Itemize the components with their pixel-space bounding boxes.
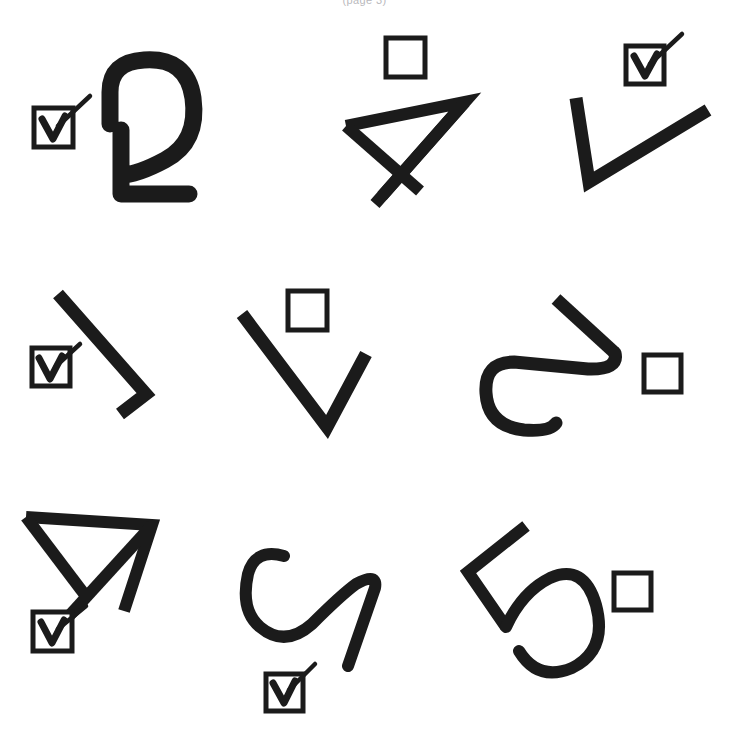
checkbox-checked-item-4[interactable] [22,282,202,427]
checkbox-unchecked-item-6[interactable] [472,292,682,452]
checkbox-checked-item-3[interactable] [548,24,728,214]
stimulus-item-5 [232,282,412,442]
checkbox-box[interactable] [644,355,681,392]
checkbox-checked-item-1[interactable] [24,24,244,224]
checkbox-box[interactable] [288,291,327,330]
scanned-worksheet-page: (page 3) [0,0,729,744]
stimulus-item-7 [12,492,207,667]
stimulus-item-8 [238,522,423,722]
checkbox-unchecked-item-9[interactable] [462,520,677,685]
checkbox-box[interactable] [614,573,651,610]
checkbox-unchecked-item-5[interactable] [232,282,412,442]
stimulus-item-9 [462,520,677,685]
stimulus-item-2 [330,26,520,226]
checkbox-checked-item-7[interactable] [12,492,207,667]
checkbox-unchecked-item-2[interactable] [330,26,520,226]
stimulus-item-1 [24,24,244,224]
stimulus-item-6 [472,292,682,452]
page-header-caption: (page 3) [0,0,729,6]
stimulus-item-3 [548,24,728,214]
checkbox-box[interactable] [386,38,425,77]
checkbox-checked-item-8[interactable] [238,522,423,722]
stimulus-item-4 [22,282,202,427]
